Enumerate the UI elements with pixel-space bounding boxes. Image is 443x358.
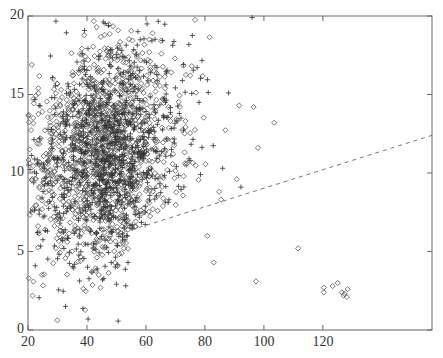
plus-marker xyxy=(178,116,183,121)
plus-marker xyxy=(163,154,168,159)
plus-marker xyxy=(149,167,154,172)
plus-marker xyxy=(55,256,60,261)
diamond-marker xyxy=(138,58,143,63)
plus-marker xyxy=(148,94,153,99)
plus-marker xyxy=(238,185,243,190)
plus-marker xyxy=(145,21,150,26)
diamond-marker xyxy=(90,282,95,287)
plus-marker xyxy=(100,277,105,282)
plus-marker xyxy=(38,103,43,108)
plus-marker xyxy=(123,283,128,288)
plus-marker xyxy=(97,53,102,58)
plus-marker xyxy=(167,169,172,174)
diamond-marker xyxy=(234,177,239,182)
diamond-marker xyxy=(140,50,145,55)
diamond-marker xyxy=(152,117,157,122)
diamond-marker xyxy=(55,318,60,323)
plus-marker xyxy=(189,142,194,147)
diamond-marker xyxy=(237,103,242,108)
plus-marker xyxy=(123,267,128,272)
diamond-marker xyxy=(39,207,44,212)
plus-marker xyxy=(190,33,195,38)
diamond-marker xyxy=(94,25,99,30)
plus-marker xyxy=(198,172,203,177)
diamond-marker xyxy=(44,99,49,104)
plus-marker xyxy=(53,19,58,24)
diamond-marker xyxy=(207,35,212,40)
plus-marker xyxy=(141,36,146,41)
plus-marker xyxy=(124,43,129,48)
plus-marker xyxy=(117,94,122,99)
diamond-marker xyxy=(47,108,52,113)
diamond-marker xyxy=(26,120,31,125)
diamond-marker xyxy=(155,208,160,213)
diamond-marker xyxy=(29,62,34,67)
plus-marker xyxy=(205,77,210,82)
diamond-marker xyxy=(50,76,55,81)
diamond-marker xyxy=(69,51,74,56)
plus-marker xyxy=(84,68,89,73)
diamond-marker xyxy=(68,220,73,225)
plus-marker xyxy=(190,137,195,142)
diamond-marker xyxy=(211,260,216,265)
plus-marker xyxy=(198,76,203,81)
plus-marker xyxy=(172,125,177,130)
diamond-marker xyxy=(296,246,301,251)
plus-marker xyxy=(151,102,156,107)
plus-marker xyxy=(138,37,143,42)
plus-marker xyxy=(96,54,101,59)
plus-marker xyxy=(80,188,85,193)
diamond-marker xyxy=(63,256,68,261)
x-tick-label: 100 xyxy=(249,335,279,349)
diamond-marker xyxy=(165,167,170,172)
diamond-marker xyxy=(182,150,187,155)
plus-marker xyxy=(38,244,43,249)
diamond-marker xyxy=(177,93,182,98)
diamond-marker xyxy=(139,81,144,86)
plus-marker xyxy=(45,256,50,261)
plus-marker xyxy=(36,207,41,212)
diamond-marker xyxy=(172,56,177,61)
plus-marker xyxy=(48,53,53,58)
diamond-marker xyxy=(136,164,141,169)
plus-marker xyxy=(61,289,66,294)
plus-marker xyxy=(155,122,160,127)
x-tick-label: 80 xyxy=(190,335,220,349)
diamond-marker xyxy=(31,279,36,284)
plus-marker xyxy=(29,153,34,158)
diamond-marker xyxy=(223,128,228,133)
diamond-marker xyxy=(144,73,149,78)
diamond-marker xyxy=(192,127,197,132)
diamond-marker xyxy=(45,115,50,120)
diamond-marker xyxy=(58,87,63,92)
diamond-marker xyxy=(201,115,206,120)
plus-marker xyxy=(125,260,130,265)
plus-marker xyxy=(102,264,107,269)
diamond-marker xyxy=(150,31,155,36)
y-tick-label: 5 xyxy=(4,244,24,258)
plus-marker xyxy=(33,263,38,268)
diamond-marker xyxy=(117,39,122,44)
diamond-marker xyxy=(37,73,42,78)
diamond-marker xyxy=(82,33,87,38)
diamond-marker xyxy=(41,283,46,288)
plus-marker xyxy=(61,246,66,251)
plus-marker xyxy=(220,166,225,171)
plus-marker xyxy=(35,230,40,235)
plus-marker xyxy=(199,145,204,150)
plus-marker xyxy=(181,184,186,189)
plus-marker xyxy=(56,287,61,292)
diamond-marker xyxy=(28,128,33,133)
plus-marker xyxy=(71,265,76,270)
diamond-marker xyxy=(65,272,70,277)
plus-marker xyxy=(72,87,77,92)
diamond-marker xyxy=(49,114,54,119)
diamond-marker xyxy=(142,42,147,47)
plus-marker xyxy=(57,221,62,226)
diamond-marker xyxy=(117,252,122,257)
diamond-marker xyxy=(203,162,208,167)
plus-marker xyxy=(199,58,204,63)
plus-marker xyxy=(114,282,119,287)
plus-marker xyxy=(226,90,231,95)
plus-marker xyxy=(97,250,102,255)
